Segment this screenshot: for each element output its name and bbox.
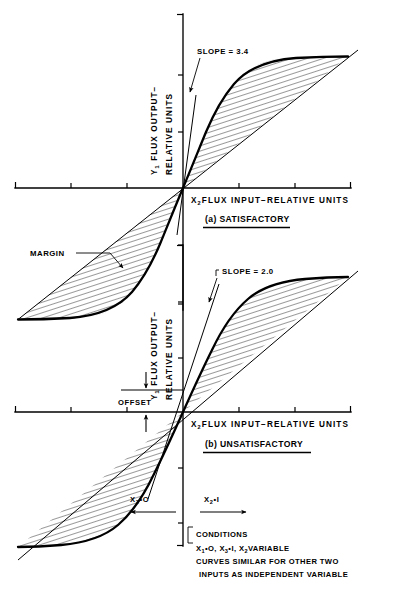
x-axis-label-a-main: FLUX INPUT−RELATIVE UNITS xyxy=(202,196,349,205)
margin-hatch-lower-b xyxy=(18,412,183,547)
slope-leader-a xyxy=(190,58,200,92)
slope-leader-b xyxy=(209,278,217,302)
conditions-line2: CURVES SIMILAR FOR OTHER TWO xyxy=(196,557,339,566)
conditions-heading: CONDITIONS xyxy=(196,530,248,539)
conditions-line1-rest2: •I, xyxy=(228,544,239,553)
x-axis-label-b-main: FLUX INPUT−RELATIVE UNITS xyxy=(202,420,349,429)
svg-text:Y1 FLUX OUTPUT−: Y1 FLUX OUTPUT− xyxy=(150,86,160,175)
caption-b: (b) UNSATISFACTORY xyxy=(205,439,303,449)
panel-a: SLOPE = 3.4 Y1 FLUX OUTPUT− RELATIVE UNI… xyxy=(15,14,358,320)
y-axis-label-a-main: FLUX OUTPUT− xyxy=(150,86,159,165)
region-marker-right-eq: •I xyxy=(213,495,219,504)
conditions-line1-rest3: VARIABLE xyxy=(248,544,289,553)
slope-label-a: SLOPE = 3.4 xyxy=(197,47,249,56)
conditions-line1-rest1: •O, xyxy=(205,544,219,553)
conditions-block: CONDITIONS X1•O, X3•I, X2VARIABLE CURVES… xyxy=(188,527,348,579)
offset-label: OFFSET xyxy=(118,398,152,407)
conditions-bracket xyxy=(188,527,193,543)
conditions-line3: INPUTS AS INDEPENDENT VARIABLE xyxy=(199,570,348,579)
y-axis-label-a-line2: RELATIVE UNITS xyxy=(165,93,174,175)
y-axis-label-b: Y1 FLUX OUTPUT− RELATIVE UNITS xyxy=(150,311,174,400)
region-marker-left-label: X2•O xyxy=(130,495,149,505)
svg-text:Y1 FLUX OUTPUT−: Y1 FLUX OUTPUT− xyxy=(150,311,160,400)
slope-label-b: SLOPE = 2.0 xyxy=(222,267,274,276)
region-markers: X2•O X2•I xyxy=(130,495,246,512)
region-marker-left-eq: •O xyxy=(139,495,149,504)
region-marker-right-label: X2•I xyxy=(204,495,219,505)
slope-leader-b-bracket xyxy=(216,270,219,276)
margin-label: MARGIN xyxy=(30,249,65,258)
y-axis-ticks-a xyxy=(177,15,183,303)
figure-container: SLOPE = 3.4 Y1 FLUX OUTPUT− RELATIVE UNI… xyxy=(0,0,402,589)
caption-a: (a) SATISFACTORY xyxy=(205,214,290,224)
margin-hatch-upper-b xyxy=(183,277,348,412)
conditions-line1: X1•O, X3•I, X2VARIABLE xyxy=(196,544,289,554)
margin-hatch-upper-a xyxy=(183,57,348,189)
x-axis-label-a: X2FLUX INPUT−RELATIVE UNITS xyxy=(191,196,349,206)
flux-transfer-figure: SLOPE = 3.4 Y1 FLUX OUTPUT− RELATIVE UNI… xyxy=(0,0,402,589)
y-axis-label-b-main: FLUX OUTPUT− xyxy=(150,311,159,390)
x-axis-label-b: X2FLUX INPUT−RELATIVE UNITS xyxy=(191,420,349,430)
y-axis-label-b-line2: RELATIVE UNITS xyxy=(165,318,174,400)
y-axis-label-a: Y1 FLUX OUTPUT− RELATIVE UNITS xyxy=(150,86,174,175)
